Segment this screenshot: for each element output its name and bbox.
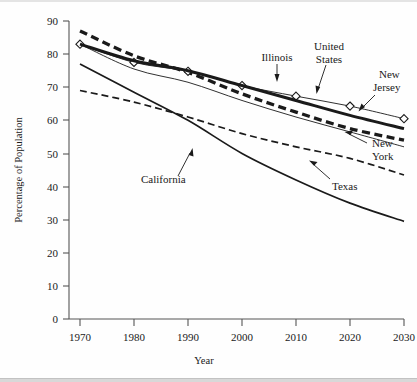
arrowhead-new-jersey — [359, 104, 366, 112]
x-tick-1990: 1990 — [177, 331, 200, 343]
x-axis-title: Year — [194, 355, 214, 366]
label-new-jersey-jersey: Jersey — [373, 81, 401, 93]
data-point-marker — [346, 102, 354, 110]
y-tick-50: 50 — [47, 148, 59, 160]
bottom-divider — [0, 378, 417, 382]
x-tick-2030: 2030 — [393, 331, 416, 343]
x-tick-2010: 2010 — [285, 331, 308, 343]
x-axis-tick-labels: 1970 1980 1990 2000 2010 2020 2030 — [69, 331, 416, 343]
data-point-marker — [400, 115, 408, 123]
series-line — [80, 91, 404, 175]
arrowhead-illinois — [275, 74, 280, 82]
y-tick-70: 70 — [47, 81, 59, 93]
label-new-york-new: New — [372, 137, 393, 149]
series-texas — [80, 91, 404, 175]
label-states: States — [316, 53, 342, 65]
y-axis-title: Percentage of Population — [13, 116, 24, 222]
y-axis-tick-labels: 90 80 70 60 50 40 30 20 10 0 — [47, 15, 59, 325]
y-axis-ticks — [63, 21, 69, 319]
series-layer — [76, 31, 408, 221]
y-tick-40: 40 — [47, 181, 59, 193]
y-tick-80: 80 — [47, 48, 59, 60]
annotation-leaders — [178, 64, 375, 179]
arrowhead-texas — [309, 161, 318, 166]
series-line — [80, 44, 404, 128]
chart-figure: 90 80 70 60 50 40 30 20 10 0 1970 1980 1… — [0, 0, 417, 382]
label-illinois: Illinois — [261, 51, 292, 63]
y-tick-20: 20 — [47, 247, 59, 259]
label-new-jersey-new: New — [379, 68, 400, 80]
x-axis-ticks — [80, 319, 404, 326]
y-tick-0: 0 — [53, 313, 59, 325]
x-tick-2020: 2020 — [339, 331, 362, 343]
y-tick-30: 30 — [47, 214, 59, 226]
y-tick-90: 90 — [47, 15, 59, 27]
x-tick-1970: 1970 — [69, 331, 92, 343]
label-texas: Texas — [332, 180, 358, 192]
leader-new-york — [349, 134, 367, 143]
axis-lines — [69, 21, 404, 319]
leader-united-states — [318, 65, 326, 89]
y-tick-10: 10 — [47, 280, 59, 292]
x-tick-1980: 1980 — [123, 331, 146, 343]
label-united: United — [314, 40, 344, 52]
leader-texas — [313, 164, 330, 179]
series-illinois — [80, 44, 404, 128]
arrowhead-united-states — [316, 86, 321, 95]
x-tick-2000: 2000 — [231, 331, 254, 343]
label-california: California — [141, 173, 186, 185]
label-new-york-york: York — [372, 150, 394, 162]
arrowhead-california — [189, 148, 194, 157]
line-chart: 90 80 70 60 50 40 30 20 10 0 1970 1980 1… — [0, 0, 417, 382]
y-tick-60: 60 — [47, 114, 59, 126]
